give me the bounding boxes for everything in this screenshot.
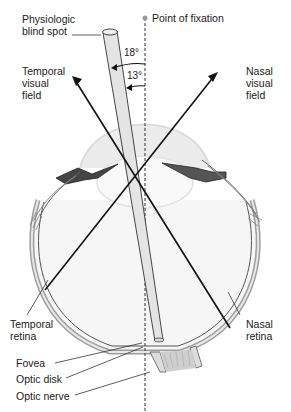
temporal-arrowhead	[72, 76, 82, 86]
label-nasal-visual-field: Nasal visual field	[246, 65, 273, 101]
angle-18-label: 18°	[124, 47, 139, 58]
label-temporal-visual-field: Temporal visual field	[22, 65, 65, 101]
label-optic-disk: Optic disk	[16, 373, 62, 385]
label-nasal-retina: Nasal retina	[246, 318, 273, 342]
label-optic-nerve: Optic nerve	[16, 390, 70, 402]
nasal-arrowhead	[208, 72, 218, 82]
label-point-of-fixation: Point of fixation	[152, 12, 224, 24]
label-blind-spot: Physiologic blind spot	[22, 13, 75, 37]
fixation-dot	[143, 16, 148, 21]
label-fovea: Fovea	[16, 357, 45, 369]
visual-field-diagram: Physiologic blind spot Point of fixation…	[0, 0, 291, 412]
angle-13-label: 13°	[127, 70, 142, 81]
label-temporal-retina: Temporal retina	[10, 318, 53, 342]
arc-arrow-inner	[126, 84, 132, 91]
eye-diagram-svg	[0, 0, 291, 412]
